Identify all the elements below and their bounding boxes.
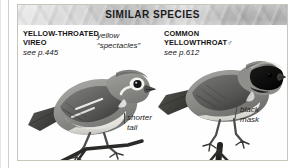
annotation-black-mask: black mask xyxy=(240,105,259,124)
species-name-line2: VIREO xyxy=(23,39,99,48)
species-block-yellow-throated-vireo: YELLOW-THROATED VIREO see p.445 xyxy=(23,30,99,58)
annotation-shorter-tail: shorter tail xyxy=(127,113,152,132)
leader-line-shorter-tail xyxy=(124,113,125,124)
illustration-plate: YELLOW-THROATED VIREO see p.445 COMMON Y… xyxy=(18,25,287,160)
common-yellowthroat-illustration xyxy=(158,45,286,160)
species-block-common-yellowthroat: COMMON YELLOWTHROAT♂ see p.612 xyxy=(164,30,233,58)
panel-title: SIMILAR SPECIES xyxy=(18,5,287,25)
page-edge-rule xyxy=(8,0,9,168)
male-sex-symbol: ♂ xyxy=(227,38,233,47)
yellow-throated-vireo-illustration xyxy=(24,47,156,160)
species-name-line2: YELLOWTHROAT♂ xyxy=(164,39,233,48)
species-page-reference[interactable]: see p.612 xyxy=(164,48,233,58)
species-name-text: YELLOWTHROAT xyxy=(164,38,227,47)
similar-species-panel: SIMILAR SPECIES xyxy=(17,4,288,161)
species-page-reference[interactable]: see p.445 xyxy=(23,48,99,58)
page-edge-rule-outer xyxy=(0,0,1,168)
annotation-yellow-spectacles: yellow “spectacles” xyxy=(97,31,140,50)
panel-header-band: SIMILAR SPECIES xyxy=(18,5,287,25)
